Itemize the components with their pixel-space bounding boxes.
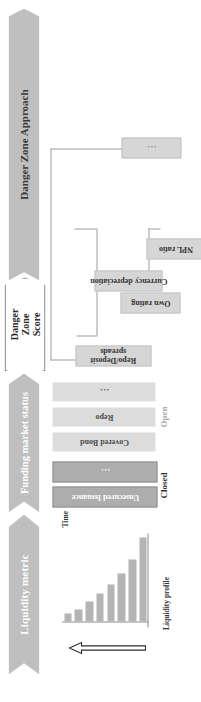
tree-connector-trunk — [50, 148, 51, 360]
chart-bar — [64, 613, 71, 621]
funding-bar-label: ... — [100, 467, 110, 476]
tree-connector-a-up — [76, 335, 96, 336]
tree-node-label: NPL ratio — [158, 244, 192, 253]
tree-node[interactable]: Currency depreciation — [94, 270, 162, 291]
funding-bar-label: Repo — [95, 413, 113, 421]
tree-node-label: ... — [146, 143, 156, 153]
chart-bar — [139, 537, 146, 621]
funding-bar[interactable]: Covered Bond — [52, 432, 155, 451]
funding-group-label-open: Open — [158, 382, 168, 451]
liquidity-profile-chart: Time Liquidity profile — [52, 510, 177, 662]
funding-bar-label: Covered Bond — [79, 438, 128, 446]
chart-x-axis — [147, 533, 148, 627]
tree-node-label: Repo/Deposit spreads — [90, 347, 136, 365]
diagram-frame: Liquidity metric Funding market status D… — [0, 0, 201, 702]
tree-connector-root-drop — [50, 359, 76, 360]
tree-node[interactable]: NPL ratio — [146, 238, 201, 259]
banner-liquidity-metric-label: Liquidity metric — [18, 554, 30, 635]
score-line-1: Danger — [8, 308, 19, 340]
chart-bar — [107, 584, 114, 621]
tree-node-ellipsis[interactable]: ... — [121, 137, 181, 158]
chart-bar — [117, 573, 124, 621]
funding-market-bars: Unsecured Issuance...ClosedCovered BondR… — [52, 377, 180, 507]
chart-ylabel: Liquidity profile — [162, 566, 170, 640]
diagram-canvas: Liquidity metric Funding market status D… — [0, 0, 201, 702]
banner-danger-zone-approach-label: Danger Zone Approach — [18, 89, 30, 199]
tree-connector-right-drop — [50, 148, 122, 149]
upward-arrow-icon — [68, 641, 146, 654]
funding-bar[interactable]: Repo — [52, 407, 155, 426]
tree-connector-b-right — [148, 228, 160, 229]
tree-node[interactable]: Own rating — [120, 292, 180, 313]
banner-danger-zone-approach: Danger Zone Approach — [8, 8, 39, 280]
banner-funding-market-status: Funding market status — [8, 373, 39, 512]
funding-group-label-closed: Closed — [158, 463, 168, 507]
funding-bar-ellipsis[interactable]: ... — [52, 382, 155, 401]
tree-connector-a-right — [74, 228, 96, 229]
chart-bar — [128, 559, 135, 621]
chart-xlabel: Time — [60, 510, 69, 527]
indicator-tree: Repo/Deposit spreadsCurrency depreciatio… — [48, 6, 180, 366]
funding-bar-ellipsis[interactable]: ... — [52, 461, 157, 482]
chart-bar — [85, 601, 92, 621]
funding-bar-label: ... — [99, 387, 109, 396]
tree-node-label: Own rating — [130, 298, 169, 307]
chart-bar — [74, 609, 81, 621]
funding-bar[interactable]: Unsecured Issuance — [52, 486, 157, 507]
chart-plot-area: Time Liquidity profile — [62, 536, 148, 622]
chart-bar — [96, 593, 103, 621]
banner-liquidity-metric: Liquidity metric — [8, 514, 39, 674]
score-line-3: Score — [30, 308, 41, 340]
banner-funding-market-status-label: Funding market status — [18, 391, 29, 493]
tree-node-label: Currency depreciation — [89, 276, 166, 285]
banner-danger-zone-score: Danger Zone Score — [4, 277, 45, 371]
funding-bar-label: Unsecured Issuance — [71, 492, 139, 500]
score-line-2: Zone — [19, 308, 30, 340]
tree-node[interactable]: Repo/Deposit spreads — [75, 345, 151, 366]
banner-danger-zone-score-text: Danger Zone Score — [8, 302, 42, 346]
